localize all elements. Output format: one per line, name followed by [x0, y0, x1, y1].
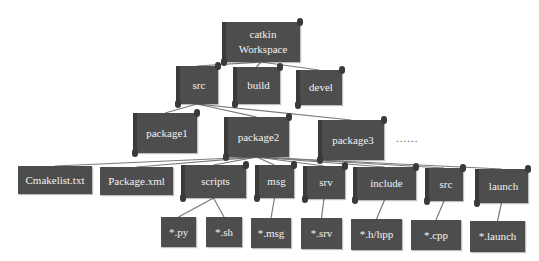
- node-label: package2: [238, 130, 280, 145]
- node-cpp: *.cpp: [411, 220, 461, 250]
- node-devel: devel: [296, 70, 342, 105]
- node-label: scripts: [201, 174, 230, 189]
- edge-src2-cpp: [436, 201, 444, 220]
- node-scripts: scripts: [181, 165, 246, 198]
- node-label: *.cpp: [424, 228, 448, 243]
- node-label: *.srv: [311, 226, 333, 241]
- node-packagexml: Package.xml: [100, 167, 173, 195]
- edge-srv-srvf: [322, 199, 325, 218]
- node-label: devel: [309, 80, 333, 95]
- node-launchf: *.launch: [470, 221, 525, 252]
- node-package3: package3: [318, 120, 384, 160]
- node-launch: launch: [475, 169, 528, 203]
- node-label: src: [440, 177, 453, 192]
- node-label: *.sh: [215, 225, 233, 240]
- node-src2: src: [425, 168, 463, 201]
- node-label: *.launch: [479, 229, 517, 244]
- catkin-workspace-diagram: ...... catkin Workspacesrcbuilddevelpack…: [0, 0, 539, 261]
- node-hpp: *.h/hpp: [351, 219, 402, 250]
- node-label: *.msg: [258, 226, 285, 241]
- node-include: include: [353, 167, 416, 200]
- node-build: build: [233, 67, 280, 104]
- edge-src-package2: [197, 104, 257, 117]
- node-label: launch: [489, 179, 518, 194]
- node-label: include: [370, 176, 402, 191]
- node-root: catkin Workspace: [222, 22, 300, 62]
- edge-src-package1: [165, 104, 197, 113]
- node-label: build: [247, 78, 270, 93]
- node-sh: *.sh: [206, 217, 242, 247]
- node-srv: srv: [303, 166, 345, 199]
- node-package1: package1: [133, 113, 197, 153]
- node-srvf: *.srv: [301, 218, 342, 249]
- node-py: *.py: [161, 217, 196, 247]
- more-packages-ellipsis: ......: [396, 132, 419, 144]
- node-label: package1: [146, 126, 188, 141]
- node-label: src: [193, 78, 206, 93]
- node-label: package3: [332, 133, 374, 148]
- edge-msg-msgf: [271, 198, 275, 218]
- node-label: msg: [267, 174, 285, 189]
- node-label: *.h/hpp: [360, 227, 393, 242]
- edge-scripts-sh: [214, 198, 225, 217]
- node-label: Cmakelist.txt: [26, 173, 85, 188]
- node-msgf: *.msg: [251, 218, 291, 248]
- node-src: src: [176, 66, 218, 104]
- edge-include-hpp: [377, 200, 385, 219]
- node-cmakelist: Cmakelist.txt: [18, 166, 92, 194]
- node-package2: package2: [224, 117, 289, 157]
- node-label: catkin Workspace: [239, 27, 288, 57]
- node-msg: msg: [255, 165, 294, 198]
- node-label: Package.xml: [108, 174, 165, 189]
- node-label: srv: [319, 175, 332, 190]
- node-label: *.py: [169, 225, 188, 240]
- edge-launch-launchf: [498, 203, 502, 221]
